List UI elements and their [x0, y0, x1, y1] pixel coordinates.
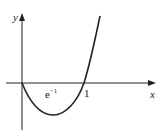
y-axis-label: y [13, 12, 18, 23]
x-axis-label: x [150, 89, 155, 100]
y-axis [19, 13, 25, 130]
x-axis [6, 80, 156, 86]
graph-canvas [0, 0, 162, 136]
curve-x-ln-x [22, 16, 100, 115]
root-label: 1 [84, 88, 90, 99]
y-axis-arrow-icon [19, 13, 25, 21]
min-x-label: e−1 [45, 88, 57, 100]
x-axis-arrow-icon [148, 80, 156, 86]
min-x-exponent: −1 [50, 87, 57, 95]
